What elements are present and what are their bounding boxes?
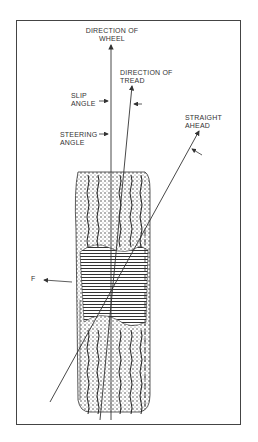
label-line: TREAD: [120, 77, 173, 85]
tire-slip-diagram: [0, 0, 258, 442]
label-line: ANGLE: [71, 100, 96, 108]
label-slip-angle: SLIP ANGLE: [71, 92, 96, 108]
label-line: DIRECTION OF: [120, 69, 173, 77]
force-arrow: [44, 280, 72, 282]
label-direction-of-wheel: DIRECTION OF WHEEL: [84, 27, 140, 43]
straight-ahead-angle-arrow: [192, 149, 202, 155]
label-line: STRAIGHT: [185, 114, 222, 122]
label-line: ANGLE: [60, 139, 97, 147]
label-steering-angle: STEERING ANGLE: [60, 131, 97, 147]
label-direction-of-tread: DIRECTION OF TREAD: [120, 69, 173, 85]
label-straight-ahead: STRAIGHT AHEAD: [185, 114, 222, 130]
label-line: DIRECTION OF: [84, 27, 140, 35]
label-line: STEERING: [60, 131, 97, 139]
label-line: AHEAD: [185, 122, 222, 130]
label-line: SLIP: [71, 92, 96, 100]
tire: [75, 172, 150, 414]
label-line: WHEEL: [84, 35, 140, 43]
label-force: F: [31, 275, 35, 283]
